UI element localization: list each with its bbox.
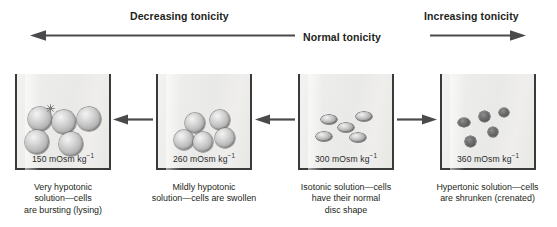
cell-swollen xyxy=(215,128,235,148)
flow-arrow-to-hypertonic xyxy=(397,114,437,125)
normal-tonicity-label: Normal tonicity xyxy=(303,31,381,43)
cell-disc xyxy=(316,132,332,141)
beaker-mildly-hypotonic: 260 mOsm kg−1 xyxy=(156,74,252,170)
cell-disc xyxy=(321,115,337,124)
beaker-hypertonic: 360 mOsm kg−1 xyxy=(440,74,536,170)
caption-isotonic: Isotonic solution—cells have their norma… xyxy=(281,182,411,216)
cell-bursting xyxy=(59,132,83,156)
beaker-isotonic: 300 mOsm kg−1 xyxy=(298,74,394,170)
osmolality-label-260: 260 mOsm kg−1 xyxy=(156,154,252,164)
cell-crenated xyxy=(499,108,509,117)
cell-crenated xyxy=(465,136,476,147)
cell-bursting xyxy=(77,107,101,131)
caption-mildly-hypotonic: Mildly hypotonic solution—cells are swol… xyxy=(136,182,272,205)
decreasing-tonicity-arrow xyxy=(30,30,295,41)
osmolality-label-150: 150 mOsm kg−1 xyxy=(15,154,111,164)
osmolality-label-300: 300 mOsm kg−1 xyxy=(298,154,394,164)
osmolality-label-360: 360 mOsm kg−1 xyxy=(440,154,536,164)
cell-disc xyxy=(356,112,372,121)
increasing-tonicity-label: Increasing tonicity xyxy=(424,10,519,22)
beaker-very-hypotonic: 150 mOsm kg−1 xyxy=(15,74,111,170)
flow-arrow-to-mildly-hypotonic xyxy=(255,114,295,125)
burst-lysis-icon xyxy=(46,104,55,113)
caption-hypertonic: Hypertonic solution—cells are shrunken (… xyxy=(420,182,555,205)
cell-swollen xyxy=(193,132,213,152)
cell-swollen xyxy=(174,130,194,150)
cell-disc xyxy=(338,123,354,132)
flow-arrow-to-very-hypotonic xyxy=(113,114,153,125)
cell-crenated xyxy=(479,111,490,122)
cell-disc xyxy=(350,133,366,142)
cell-bursting xyxy=(52,110,76,134)
cell-bursting xyxy=(25,130,49,154)
cell-swollen xyxy=(210,110,230,130)
increasing-tonicity-arrow xyxy=(430,30,526,41)
cell-crenated xyxy=(488,127,498,137)
caption-very-hypotonic: Very hypotonic solution—cells are bursti… xyxy=(3,182,123,216)
decreasing-tonicity-label: Decreasing tonicity xyxy=(130,10,229,22)
cell-crenated xyxy=(458,118,470,127)
tonicity-diagram: Decreasing tonicity Normal tonicity Incr… xyxy=(0,0,557,227)
